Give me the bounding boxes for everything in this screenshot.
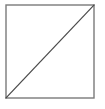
figure-canvas (0, 0, 105, 109)
square-with-diagonal-graphic (0, 0, 105, 109)
